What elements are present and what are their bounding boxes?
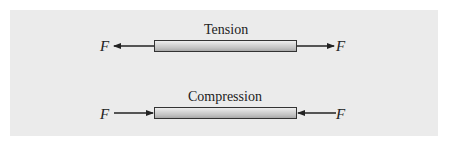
force-arrows <box>0 0 451 146</box>
